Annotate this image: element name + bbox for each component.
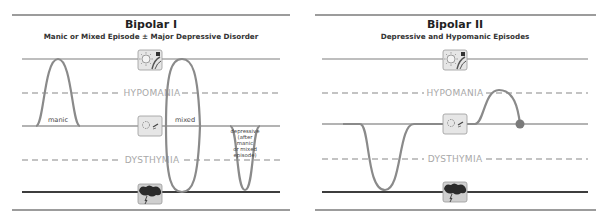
storm-cloud-icon (138, 184, 162, 204)
manic-label: manic (48, 116, 68, 124)
dysthymia-label: DYSTHYMIA (125, 155, 180, 165)
panel-title: Bipolar I (125, 18, 177, 31)
svg-text:episode): episode) (233, 152, 256, 159)
sun-and-music-icon (443, 50, 467, 70)
sun-and-music-icon (138, 50, 162, 70)
panel-subtitle: Depressive and Hypomanic Episodes (381, 32, 530, 41)
hypomania-label: HYPOMANIA (124, 88, 181, 98)
dysthymia-label: DYSTHYMIA (428, 154, 483, 164)
panel-bipolar-2: Bipolar II Depressive and Hypomanic Epis… (315, 15, 596, 210)
panel-subtitle: Manic or Mixed Episode ± Major Depressiv… (44, 32, 259, 41)
course-endpoint-marker (516, 120, 525, 129)
panel-title: Bipolar II (427, 18, 483, 31)
mood-course-curve (343, 90, 520, 190)
bipolar-diagram: Bipolar I Manic or Mixed Episode ± Major… (0, 0, 605, 220)
mixed-label: mixed (175, 116, 195, 124)
storm-cloud-icon (443, 182, 467, 202)
sun-and-music-outline-icon (138, 116, 162, 136)
hypomania-label: HYPOMANIA (427, 88, 484, 98)
panel-bipolar-1: Bipolar I Manic or Mixed Episode ± Major… (12, 15, 290, 210)
sun-and-music-outline-icon (443, 114, 467, 134)
